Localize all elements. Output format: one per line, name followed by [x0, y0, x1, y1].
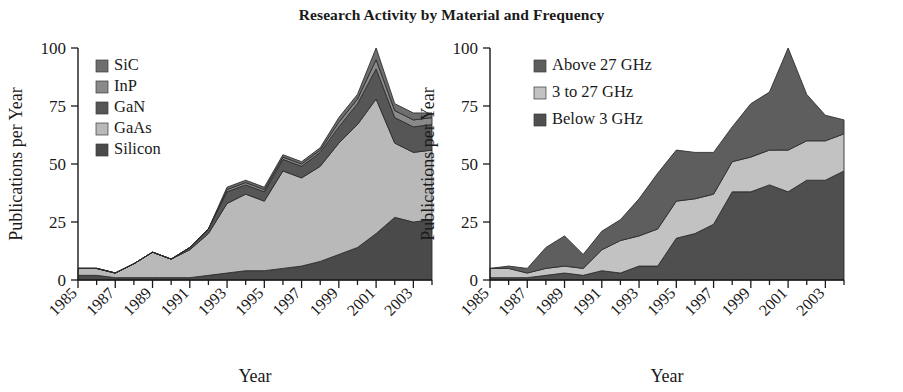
x-tick-label: 1997: [269, 284, 304, 319]
x-tick-label: 2001: [344, 284, 379, 319]
figure-container: Research Activity by Material and Freque…: [0, 0, 903, 392]
legend-label: Silicon: [114, 139, 161, 158]
x-tick-label-group: 1985: [45, 284, 80, 319]
x-tick-label: 1985: [457, 284, 492, 319]
x-tick-label-group: 2001: [344, 284, 379, 319]
legend-label: SiC: [114, 55, 139, 74]
y-tick-label: 25: [49, 213, 66, 232]
legend-label: Below 3 GHz: [552, 109, 643, 128]
x-tick-label: 1995: [232, 284, 267, 319]
x-tick-label-group: 1997: [681, 284, 716, 319]
x-tick-label: 1999: [306, 284, 341, 319]
legend-label: 3 to 27 GHz: [552, 82, 633, 101]
legend-label: InP: [114, 76, 137, 95]
legend-swatch: [534, 87, 546, 99]
y-axis-title-group: Publications per Year: [6, 87, 26, 240]
legend: SiCInPGaNGaAsSilicon: [96, 55, 161, 158]
x-tick-label-group: 1987: [495, 284, 530, 319]
x-tick-label-group: 2003: [381, 284, 416, 319]
x-tick-label-group: 1991: [569, 284, 604, 319]
legend-swatch: [96, 123, 108, 135]
x-tick-label: 1991: [157, 284, 192, 319]
x-tick-label-group: 1995: [232, 284, 267, 319]
frequency-area-chart: 0255075100198519871989199119931995199719…: [412, 30, 862, 392]
x-tick-label: 1987: [495, 284, 530, 319]
x-axis-title: Year: [650, 366, 683, 386]
x-tick-label: 2003: [793, 284, 828, 319]
x-tick-label-group: 1995: [644, 284, 679, 319]
x-tick-label: 1991: [569, 284, 604, 319]
x-tick-label: 1987: [83, 284, 118, 319]
x-tick-label: 1989: [532, 284, 567, 319]
x-tick-label: 1993: [607, 284, 642, 319]
y-tick-label: 50: [461, 155, 478, 174]
x-tick-label: 1995: [644, 284, 679, 319]
chart-panel-materials: 0255075100198519871989199119931995199719…: [0, 30, 450, 392]
x-tick-label: 1989: [120, 284, 155, 319]
x-tick-label-group: 1989: [120, 284, 155, 319]
x-tick-label: 1997: [681, 284, 716, 319]
y-tick-label: 75: [461, 97, 478, 116]
x-tick-label: 1985: [45, 284, 80, 319]
legend-swatch: [534, 114, 546, 126]
x-tick-label: 2001: [756, 284, 791, 319]
x-tick-label-group: 1997: [269, 284, 304, 319]
x-tick-label: 1993: [195, 284, 230, 319]
y-axis-title: Publications per Year: [418, 87, 438, 240]
x-tick-label: 1999: [718, 284, 753, 319]
legend-swatch: [96, 144, 108, 156]
x-tick-label-group: 2003: [793, 284, 828, 319]
y-tick-label: 25: [461, 213, 478, 232]
x-tick-label-group: 1993: [195, 284, 230, 319]
y-tick-label: 50: [49, 155, 66, 174]
y-axis-title-group: Publications per Year: [418, 87, 438, 240]
x-tick-label-group: 1999: [306, 284, 341, 319]
x-tick-label: 2003: [381, 284, 416, 319]
x-axis-title: Year: [238, 366, 271, 386]
y-tick-label: 100: [453, 39, 479, 58]
x-tick-label-group: 1999: [718, 284, 753, 319]
materials-area-chart: 0255075100198519871989199119931995199719…: [0, 30, 450, 392]
legend-swatch: [534, 60, 546, 72]
chart-panel-frequency: 0255075100198519871989199119931995199719…: [412, 30, 862, 392]
legend: Above 27 GHz3 to 27 GHzBelow 3 GHz: [534, 55, 652, 128]
x-tick-label-group: 1993: [607, 284, 642, 319]
x-tick-label-group: 1985: [457, 284, 492, 319]
legend-swatch: [96, 81, 108, 93]
y-tick-label: 100: [41, 39, 67, 58]
legend-label: Above 27 GHz: [552, 55, 652, 74]
legend-label: GaAs: [114, 118, 152, 137]
legend-label: GaN: [114, 97, 145, 116]
x-tick-label-group: 1989: [532, 284, 567, 319]
x-tick-label-group: 1987: [83, 284, 118, 319]
x-tick-label-group: 2001: [756, 284, 791, 319]
figure-title: Research Activity by Material and Freque…: [0, 6, 903, 24]
y-axis-title: Publications per Year: [6, 87, 26, 240]
x-tick-label-group: 1991: [157, 284, 192, 319]
y-tick-label: 75: [49, 97, 66, 116]
legend-swatch: [96, 102, 108, 114]
legend-swatch: [96, 60, 108, 72]
